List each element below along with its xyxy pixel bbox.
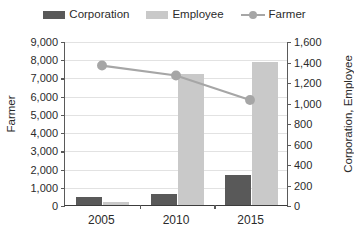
y-axis-left-tick-label: 1,000 [14,183,58,194]
legend-label-farmer: Farmer [269,9,306,21]
y-axis-right-tick-mark [287,104,291,105]
x-axis-tick-label: 2010 [141,214,211,226]
plot-area [64,42,288,206]
y-axis-right-tick-label: 1,400 [294,58,338,69]
y-axis-right-tick-label: 400 [294,160,338,171]
legend-item-employee[interactable]: Employee [146,9,223,21]
farmer-data-point-2010 [171,71,181,81]
y-axis-right-tick-mark [287,83,291,84]
y-axis-left-tick-label: 6,000 [14,92,58,103]
y-axis-right-tick-mark [287,124,291,125]
x-axis-tick-mark [214,205,215,209]
y-axis-left-tick-label: 3,000 [14,146,58,157]
x-axis-tick-label: 2005 [66,214,136,226]
farmer-data-point-2015 [245,95,255,105]
y-axis-left-tick-label: 9,000 [14,37,58,48]
farmer-line-series [65,42,287,205]
y-axis-right-title: Corporation, Employee [342,52,354,176]
y-axis-right-tick-label: 1,000 [294,99,338,110]
y-axis-right-tick-label: 800 [294,119,338,130]
y-axis-left-tick-label: 2,000 [14,165,58,176]
y-axis-right-tick-label: 1,600 [294,37,338,48]
y-axis-right-tick-mark [287,206,291,207]
y-axis-left-tick-label: 5,000 [14,110,58,121]
x-axis-tick-label: 2015 [216,214,286,226]
y-axis-right-tick-mark [287,42,291,43]
chart-legend: Corporation Employee Farmer [0,6,349,24]
legend-marker-farmer [241,10,265,20]
legend-item-corporation[interactable]: Corporation [43,9,129,21]
y-axis-right-tick-label: 1,200 [294,78,338,89]
y-axis-right-tick-label: 600 [294,140,338,151]
y-axis-left-tick-mark [61,206,65,207]
legend-swatch-corporation [43,11,65,19]
y-axis-right-tick-mark [287,186,291,187]
legend-label-corporation: Corporation [69,9,129,21]
y-axis-left-tick-label: 0 [14,201,58,212]
y-axis-right-tick-mark [287,63,291,64]
y-axis-right-tick-label: 200 [294,181,338,192]
farmer-data-point-2005 [97,61,107,71]
y-axis-right-tick-mark [287,145,291,146]
y-axis-left-tick-label: 8,000 [14,55,58,66]
legend-label-employee: Employee [172,9,223,21]
legend-item-farmer[interactable]: Farmer [241,9,306,21]
y-axis-left-tick-label: 7,000 [14,73,58,84]
y-axis-right-tick-label: 0 [294,201,338,212]
y-axis-left-tick-label: 4,000 [14,128,58,139]
legend-swatch-employee [146,11,168,19]
y-axis-right-tick-mark [287,165,291,166]
x-axis-tick-mark [140,205,141,209]
